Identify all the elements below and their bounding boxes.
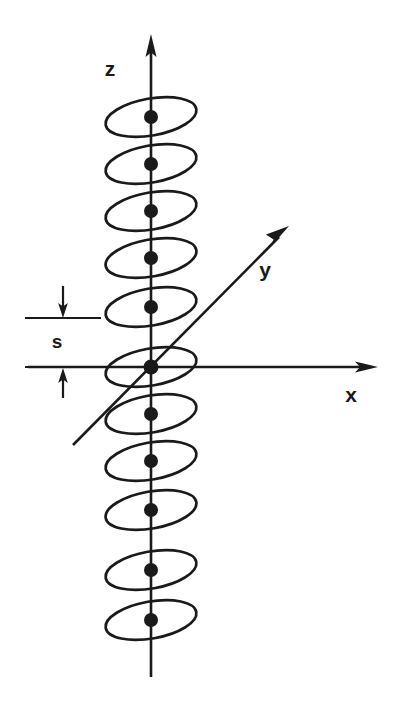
plane-center-dot	[144, 300, 158, 314]
plane-center-dot	[144, 613, 158, 627]
plane-group-9	[102, 484, 199, 536]
plane-group-3	[102, 185, 199, 237]
plane-center-dot	[144, 407, 158, 421]
plane-group-7	[102, 388, 199, 440]
plane-center-dot	[144, 454, 158, 468]
plane-group-10	[102, 544, 199, 596]
plane-center-dot	[144, 157, 158, 171]
plane-group-11	[102, 594, 199, 646]
y-axis-label: y	[259, 258, 271, 281]
z-axis-label: z	[105, 57, 116, 80]
plane-group-5	[102, 281, 199, 333]
physics-diagram-figure: z x y s	[0, 0, 409, 706]
spacing-dimension-annotation	[25, 286, 101, 398]
y-axis-line	[73, 237, 279, 445]
diagram-canvas: z x y s	[0, 0, 409, 706]
plane-group-2	[102, 138, 199, 190]
y-axis	[73, 226, 289, 445]
plane-center-dot	[144, 204, 158, 218]
plane-center-dot	[144, 251, 158, 265]
plane-center-dot	[144, 563, 158, 577]
plane-center-dot-origin	[144, 360, 159, 375]
plane-center-dot	[144, 503, 158, 517]
plane-center-dot	[144, 110, 158, 124]
y-axis-arrowhead	[266, 226, 289, 247]
z-axis	[146, 34, 157, 677]
plane-group-8	[102, 435, 199, 487]
x-axis-label: x	[345, 383, 357, 406]
plane-group-1	[102, 91, 199, 143]
plane-group-4	[102, 232, 199, 284]
spacing-label: s	[52, 331, 63, 352]
